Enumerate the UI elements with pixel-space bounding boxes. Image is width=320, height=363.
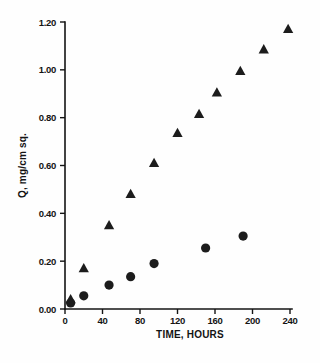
x-tick-label: 40 bbox=[98, 315, 108, 326]
y-axis-label: Q, mg/cm sq. bbox=[17, 133, 28, 198]
data-point-circle bbox=[79, 291, 88, 300]
y-tick-label: 0.60 bbox=[39, 160, 56, 171]
data-point-circle bbox=[104, 280, 113, 289]
series-triangles bbox=[66, 24, 294, 304]
x-tick-label: 80 bbox=[135, 315, 145, 326]
chart-figure: 04080120160200240 0.000.200.400.600.801.… bbox=[0, 0, 320, 363]
data-point-triangle bbox=[172, 128, 182, 137]
y-tick-label: 1.00 bbox=[39, 64, 56, 75]
data-point-triangle bbox=[212, 87, 222, 96]
y-tick-label: 0.80 bbox=[39, 112, 56, 123]
data-point-triangle bbox=[104, 220, 114, 229]
data-point-circle bbox=[149, 259, 158, 268]
data-point-triangle bbox=[235, 66, 245, 75]
y-axis-tick-labels: 0.000.200.400.600.801.001.20 bbox=[39, 17, 56, 315]
data-point-triangle bbox=[283, 24, 293, 33]
data-point-circle bbox=[239, 231, 248, 240]
data-point-circle bbox=[201, 243, 210, 252]
data-point-circle bbox=[126, 272, 135, 281]
axes bbox=[65, 22, 292, 309]
scatter-plot: 04080120160200240 0.000.200.400.600.801.… bbox=[0, 0, 320, 363]
series-circles bbox=[66, 231, 248, 307]
y-tick-label: 0.00 bbox=[39, 304, 56, 315]
x-axis-label: TIME, HOURS bbox=[156, 329, 224, 340]
data-point-triangle bbox=[149, 158, 159, 167]
y-tick-label: 0.20 bbox=[39, 256, 56, 267]
x-tick-label: 0 bbox=[63, 315, 68, 326]
x-tick-label: 200 bbox=[245, 315, 260, 326]
y-tick-label: 0.40 bbox=[39, 208, 56, 219]
data-point-triangle bbox=[79, 263, 89, 272]
data-point-triangle bbox=[259, 44, 269, 53]
data-point-triangle bbox=[194, 109, 204, 118]
data-point-triangle bbox=[126, 189, 136, 198]
y-tick-label: 1.20 bbox=[39, 17, 56, 28]
data-point-circle bbox=[66, 298, 75, 307]
x-tick-label: 240 bbox=[283, 315, 298, 326]
x-axis-tick-labels: 04080120160200240 bbox=[63, 315, 298, 326]
x-tick-label: 120 bbox=[170, 315, 185, 326]
x-tick-label: 160 bbox=[208, 315, 223, 326]
